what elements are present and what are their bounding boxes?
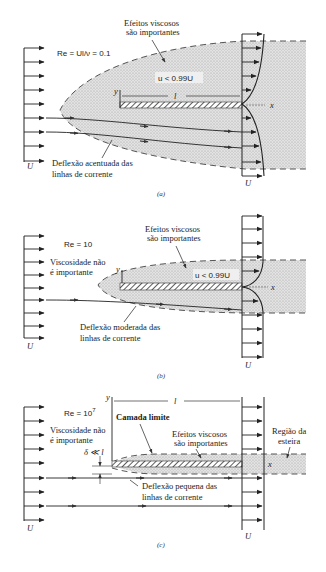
viscosity-note-b-2: é importante	[50, 267, 93, 277]
axis-x-label-c: x	[267, 459, 272, 469]
viscous-label-b-2: são importantes	[147, 233, 201, 243]
caption-c: (c)	[157, 541, 165, 549]
velocity-condition-a: u < 0.99U	[158, 74, 193, 83]
flat-plate-c	[112, 461, 242, 467]
streamline-label-a-2: linhas de corrente	[52, 169, 113, 179]
caption-a: (a)	[157, 190, 166, 198]
viscous-label-c-2: são importantes	[174, 438, 228, 448]
axis-y-label-c: y	[105, 392, 110, 402]
viscosity-note-b-1: Viscosidade não	[50, 257, 105, 267]
boundary-layer-label-c: Camada limite	[116, 412, 170, 422]
viscous-label-a-2: são importantes	[126, 27, 180, 37]
streamline-label-b-1: Deflexão moderada das	[80, 322, 160, 332]
axis-x-label-b: x	[270, 282, 275, 292]
downstream-velocity-label-a: U	[245, 178, 252, 188]
axis-y-label-a: y	[113, 86, 118, 96]
streamline-label-c-2: linhas de corrente	[142, 492, 203, 502]
wake-label-c-1: Região da	[272, 426, 306, 436]
viscosity-note-c-1: Viscosidade não	[50, 425, 105, 435]
panel-c: U y l x δ ≪ l	[24, 392, 306, 549]
axis-y-label-b: y	[115, 264, 120, 274]
streamline-label-b-2: linhas de corrente	[80, 333, 141, 343]
downstream-velocity-label-b: U	[245, 360, 252, 370]
upstream-velocity-profile-a	[24, 48, 44, 162]
streamline-label-a-1: Deflexão acentuada das	[52, 158, 133, 168]
downstream-velocity-label-c: U	[245, 531, 252, 541]
caption-b: (b)	[157, 372, 166, 380]
thickness-label-c: δ ≪ l	[84, 447, 104, 457]
viscosity-note-c-2: é importante	[50, 435, 93, 445]
axis-x-label-a: x	[269, 100, 274, 110]
upstream-velocity-label-c: U	[27, 523, 34, 533]
flat-plate-a	[120, 102, 242, 108]
upstream-velocity-profile-c	[24, 407, 44, 521]
flat-plate-b	[120, 283, 242, 290]
upstream-velocity-profile-b	[24, 236, 44, 338]
plate-length-label-c: l	[174, 396, 177, 406]
streamline-label-c-1: Deflexão pequena das	[142, 481, 217, 491]
wake-label-c-2: esteira	[278, 436, 300, 446]
upstream-velocity-label-b: U	[27, 341, 34, 351]
reynolds-label-b: Re = 10	[64, 240, 93, 249]
reynolds-label-a: Re = Ul/ν = 0.1	[57, 49, 111, 58]
panel-b: U y x U Re = 10 Viscosidade não	[24, 216, 306, 380]
velocity-condition-b: u < 0.99U	[195, 271, 230, 280]
upstream-velocity-label-a: U	[27, 161, 34, 171]
flow-over-plate-diagram: U y l x	[0, 0, 326, 572]
reynolds-label-c: Re = 107	[64, 407, 96, 418]
panel-a: U y l x	[24, 18, 306, 198]
